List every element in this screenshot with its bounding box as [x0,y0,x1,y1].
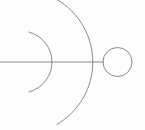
canvas-background [0,0,145,130]
diagram-canvas [0,0,145,130]
radiating-wave-node-figure [0,0,145,130]
